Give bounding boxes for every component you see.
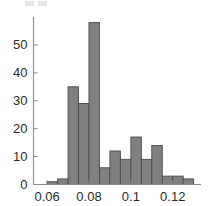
histogram-bar <box>79 104 89 185</box>
histogram-bar <box>141 159 151 184</box>
histogram-figure: 01020304050 0.060.080.10.12 <box>0 0 208 206</box>
page-corner-artifact <box>25 1 47 6</box>
histogram-plot: 01020304050 0.060.080.10.12 <box>0 0 208 206</box>
y-axis-tick-label: 40 <box>13 65 27 80</box>
y-axis-tick-labels: 01020304050 <box>13 37 27 192</box>
y-axis-tick-label: 30 <box>13 93 27 108</box>
x-axis-tick-labels: 0.060.080.10.12 <box>34 189 185 204</box>
histogram-bar <box>99 168 109 185</box>
histogram-bar <box>89 23 99 185</box>
histogram-bar <box>68 87 78 185</box>
y-axis-tick-label: 10 <box>13 149 27 164</box>
histogram-bar <box>183 179 193 185</box>
histogram-bar <box>131 137 141 184</box>
histogram-bar <box>120 159 130 184</box>
histogram-bar <box>110 151 120 185</box>
x-axis-tick-label: 0.12 <box>160 189 185 204</box>
y-axis-tick-label: 0 <box>20 177 27 192</box>
bars-group <box>47 23 194 185</box>
histogram-bar <box>162 176 172 184</box>
x-axis-tick-label: 0.1 <box>122 189 140 204</box>
y-axis-tick-label: 50 <box>13 37 27 52</box>
histogram-bar <box>152 145 162 184</box>
y-axis-tick-label: 20 <box>13 121 27 136</box>
x-axis-tick-label: 0.08 <box>76 189 101 204</box>
x-axis-tick-label: 0.06 <box>34 189 59 204</box>
histogram-bar <box>173 176 183 184</box>
histogram-bar <box>58 179 68 185</box>
y-axis-ticks <box>34 45 38 185</box>
